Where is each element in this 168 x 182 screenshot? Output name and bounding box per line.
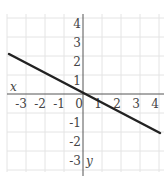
graph: -3 -2 -1 0 1 2 3 4 4 3 2 1 -1 -2 -3 x y: [0, 0, 168, 182]
y-tick: -1: [69, 116, 81, 130]
y-tick: -2: [69, 135, 81, 149]
y-tick: 4: [73, 17, 81, 31]
x-tick: -1: [53, 97, 65, 111]
x-tick: 3: [132, 97, 140, 111]
x-tick: 0: [75, 97, 83, 111]
x-tick-labels: -3 -2 -1 0 1 2 3 4: [15, 97, 159, 111]
y-tick: -3: [69, 154, 81, 168]
y-tick: 2: [73, 55, 81, 69]
x-axis-label: x: [10, 80, 17, 94]
x-tick: -3: [15, 97, 27, 111]
y-tick: 3: [73, 36, 81, 50]
y-tick-labels: 4 3 2 1 -1 -2 -3: [69, 17, 81, 168]
x-tick: 4: [151, 97, 159, 111]
y-tick: 1: [73, 74, 81, 88]
x-tick: -2: [34, 97, 46, 111]
y-axis-label: y: [85, 154, 93, 168]
